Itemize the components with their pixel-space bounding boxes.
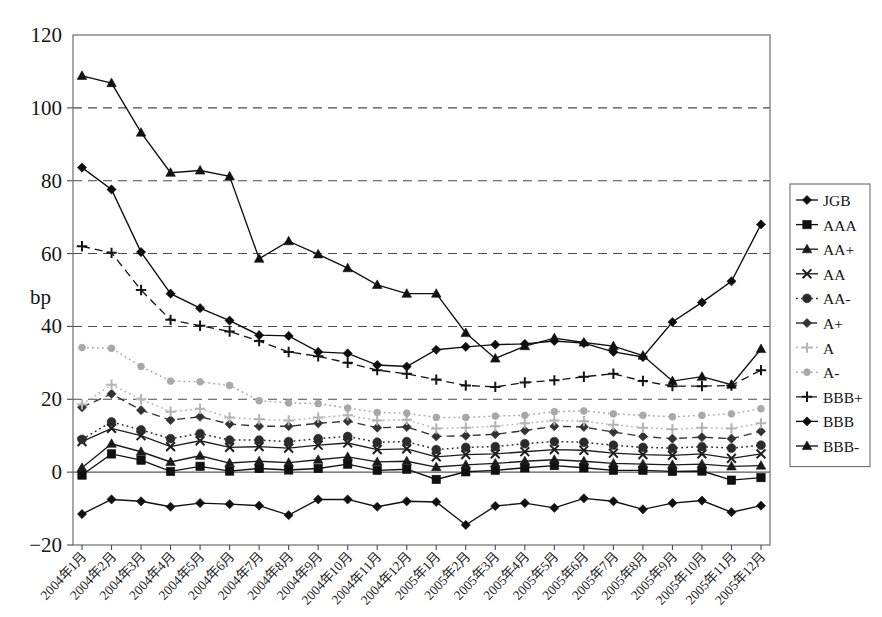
data-point-marker: [579, 416, 589, 426]
y-tick-label: 80: [41, 169, 62, 193]
data-point-marker: [137, 425, 146, 434]
series-line: [82, 454, 761, 480]
data-point-marker: [579, 438, 588, 447]
data-point-marker: [107, 389, 116, 398]
data-point-marker: [756, 344, 766, 353]
series-aplus: [77, 389, 765, 443]
data-point-marker: [669, 413, 676, 420]
series-a: [77, 380, 766, 435]
data-point-marker: [107, 439, 117, 448]
data-point-marker: [137, 456, 145, 464]
data-point-marker: [283, 347, 293, 357]
series-bbb: [77, 163, 765, 371]
data-point-marker: [77, 509, 86, 518]
data-point-marker: [196, 462, 204, 470]
y-tick-label: 20: [41, 387, 62, 411]
data-point-marker: [402, 456, 412, 465]
data-point-marker: [314, 347, 323, 356]
series-line: [82, 422, 761, 450]
data-point-marker: [255, 331, 264, 340]
data-point-marker: [551, 408, 558, 415]
series-line: [82, 168, 761, 367]
series-line: [82, 444, 761, 468]
data-point-marker: [195, 499, 204, 508]
data-point-marker: [136, 406, 145, 415]
data-point-marker: [639, 443, 648, 452]
series-aaminus: [78, 417, 766, 453]
data-point-marker: [431, 374, 441, 384]
legend-label: A+: [823, 315, 843, 332]
series-bbbminus: [77, 71, 766, 389]
y-tick-label: 40: [41, 314, 62, 338]
y-tick-label: −20: [29, 533, 62, 557]
data-point-marker: [372, 415, 382, 425]
data-point-marker: [136, 394, 146, 404]
data-point-marker: [461, 423, 471, 433]
legend: JGBAAAAA+AAAA-A+AA-BBB+BBBBBB-: [790, 184, 870, 467]
data-point-marker: [698, 467, 706, 475]
y-tick-label: 0: [52, 460, 63, 484]
data-point-marker: [195, 451, 205, 460]
data-point-marker: [195, 404, 205, 414]
data-point-marker: [698, 442, 707, 451]
data-point-marker: [255, 501, 264, 510]
data-point-marker: [254, 254, 264, 263]
data-point-marker: [166, 502, 175, 511]
data-point-marker: [756, 365, 766, 375]
data-point-marker: [697, 496, 706, 505]
data-point-marker: [254, 414, 264, 424]
data-point-marker: [314, 495, 323, 504]
data-point-marker: [491, 501, 500, 510]
y-tick-label: 100: [31, 96, 63, 120]
data-point-marker: [550, 503, 559, 512]
data-point-marker: [402, 437, 411, 446]
data-point-marker: [520, 418, 530, 428]
data-point-marker: [107, 417, 116, 426]
series-aa: [78, 424, 766, 463]
legend-label: BBB: [823, 413, 854, 430]
data-point-marker: [79, 344, 86, 351]
data-point-marker: [609, 441, 618, 450]
data-point-marker: [727, 444, 736, 453]
data-point-marker: [461, 443, 470, 452]
data-point-marker: [756, 501, 765, 510]
data-point-marker: [550, 455, 560, 464]
data-point-marker: [579, 372, 589, 382]
data-point-marker: [727, 434, 736, 443]
data-point-marker: [225, 467, 233, 475]
series-line: [82, 428, 761, 458]
data-point-marker: [373, 438, 382, 447]
chart-container: −20020406080100120bp2004年1月2004年2月2004年3…: [0, 0, 882, 617]
data-point-marker: [165, 315, 175, 325]
data-point-marker: [668, 444, 677, 453]
legend-label: A-: [823, 364, 839, 381]
legend-label: AAA: [823, 217, 857, 234]
data-point-marker: [106, 248, 116, 258]
data-point-marker: [195, 321, 205, 331]
y-axis-unit-label: bp: [30, 285, 51, 309]
data-point-marker: [433, 414, 440, 421]
series-layer: [77, 71, 766, 530]
data-point-marker: [521, 412, 528, 419]
data-point-marker: [136, 497, 145, 506]
series-line: [82, 246, 761, 387]
data-point-marker: [726, 423, 736, 433]
legend-label: BBB+: [823, 389, 863, 406]
data-point-marker: [756, 461, 766, 470]
data-point-marker: [284, 511, 293, 520]
data-point-marker: [107, 495, 116, 504]
data-point-marker: [225, 436, 234, 445]
data-point-marker: [462, 468, 470, 476]
data-point-marker: [225, 500, 234, 509]
data-point-marker: [803, 294, 812, 303]
data-point-marker: [284, 331, 293, 340]
data-point-marker: [727, 277, 736, 286]
data-point-marker: [520, 377, 530, 387]
data-point-marker: [490, 382, 500, 392]
data-point-marker: [314, 434, 323, 443]
legend-label: A: [823, 340, 835, 357]
line-chart-svg: −20020406080100120bp2004年1月2004年2月2004年3…: [0, 0, 882, 617]
data-point-marker: [166, 467, 174, 475]
data-point-marker: [432, 475, 440, 483]
data-point-marker: [728, 410, 735, 417]
